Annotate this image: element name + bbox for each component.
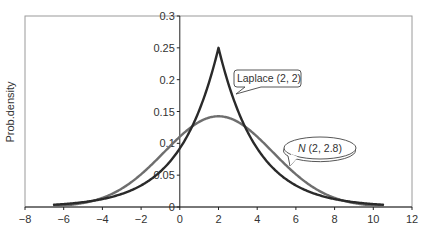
x-tick-label: 12 bbox=[406, 213, 418, 225]
x-tick-label: −4 bbox=[96, 213, 109, 225]
annotation-laplace-label: Laplace (2, 2) bbox=[237, 72, 301, 84]
plot-frame bbox=[25, 16, 412, 207]
y-tick-label: 0.3 bbox=[160, 10, 175, 22]
chart: 00.050.10.150.20.250.3 −8−6−4−2024681012… bbox=[0, 0, 427, 238]
series-line-laplace bbox=[54, 48, 383, 205]
x-ticks: −8−6−4−2024681012 bbox=[19, 207, 418, 225]
annotation-normal-label: N (2, 2.8) bbox=[298, 142, 342, 154]
y-tick-label: 0.15 bbox=[153, 106, 174, 118]
x-tick-label: −8 bbox=[19, 213, 32, 225]
x-tick-label: 6 bbox=[293, 213, 299, 225]
x-tick-label: 2 bbox=[215, 213, 221, 225]
x-tick-label: 4 bbox=[254, 213, 260, 225]
x-tick-label: 0 bbox=[177, 213, 183, 225]
x-tick-label: −2 bbox=[135, 213, 148, 225]
x-tick-label: −6 bbox=[57, 213, 70, 225]
x-tick-label: 10 bbox=[367, 213, 379, 225]
y-tick-label: 0.25 bbox=[153, 42, 174, 54]
series-group bbox=[54, 48, 383, 206]
y-tick-label: 0.2 bbox=[160, 74, 175, 86]
annotation-laplace: Laplace (2, 2) bbox=[234, 70, 301, 94]
y-ticks: 00.050.10.150.20.250.3 bbox=[153, 10, 179, 213]
annotation-normal-label-rest: (2, 2.8) bbox=[306, 142, 342, 154]
y-axis-label: Prob.density bbox=[4, 81, 16, 143]
annotation-normal: N (2, 2.8) bbox=[283, 137, 356, 166]
x-tick-label: 8 bbox=[332, 213, 338, 225]
